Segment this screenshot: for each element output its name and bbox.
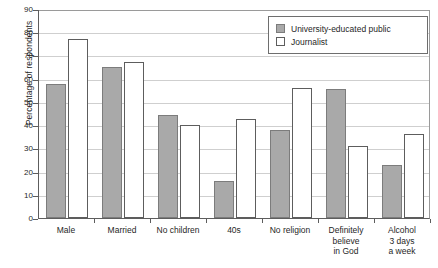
x-axis-label-line: Alcohol (374, 225, 430, 236)
legend-swatch-white-square-icon (276, 37, 285, 46)
bar (180, 125, 200, 218)
bar (158, 115, 178, 218)
x-axis-label-line: believe (318, 236, 374, 247)
x-axis-label-line: No children (150, 225, 206, 236)
x-axis-label: Male (38, 225, 94, 236)
bar (214, 181, 234, 218)
x-axis-label: No religion (262, 225, 318, 236)
bar-chart: Percentage of respondents 01020304050607… (0, 0, 438, 268)
bar (68, 39, 88, 218)
x-tick-mark (318, 219, 319, 223)
bar (236, 119, 256, 218)
legend-label-journalist: Journalist (291, 37, 327, 47)
x-axis-label: Alcohol3 daysa week (374, 225, 430, 257)
x-tick-mark (94, 219, 95, 223)
x-tick-mark (430, 219, 431, 223)
x-axis-label-line: Married (94, 225, 150, 236)
legend: University-educated public Journalist (268, 16, 428, 54)
x-axis-label-line: 3 days (374, 236, 430, 247)
bar (292, 88, 312, 218)
x-axis-label-line: in God (318, 246, 374, 257)
legend-item-university: University-educated public (276, 22, 421, 35)
x-axis-label: Definitelybelievein God (318, 225, 374, 257)
x-axis-label-line: Definitely (318, 225, 374, 236)
legend-label-university: University-educated public (291, 24, 391, 34)
legend-swatch-gray-square-icon (276, 24, 285, 33)
bar (404, 134, 424, 218)
bar (382, 165, 402, 218)
bar (102, 67, 122, 218)
x-tick-mark (206, 219, 207, 223)
x-tick-mark (150, 219, 151, 223)
x-axis-label: No children (150, 225, 206, 236)
x-axis-label-line: Male (38, 225, 94, 236)
x-axis-label-line: a week (374, 246, 430, 257)
bar (348, 146, 368, 218)
bar (46, 84, 66, 218)
bar (270, 130, 290, 218)
x-axis-label: Married (94, 225, 150, 236)
x-axis-label-line: No religion (262, 225, 318, 236)
x-axis-label: 40s (206, 225, 262, 236)
legend-item-journalist: Journalist (276, 35, 421, 48)
x-tick-mark (374, 219, 375, 223)
x-axis-label-line: 40s (206, 225, 262, 236)
y-tick-mark (33, 219, 38, 220)
x-tick-mark (262, 219, 263, 223)
bar (124, 62, 144, 218)
bar (326, 89, 346, 218)
